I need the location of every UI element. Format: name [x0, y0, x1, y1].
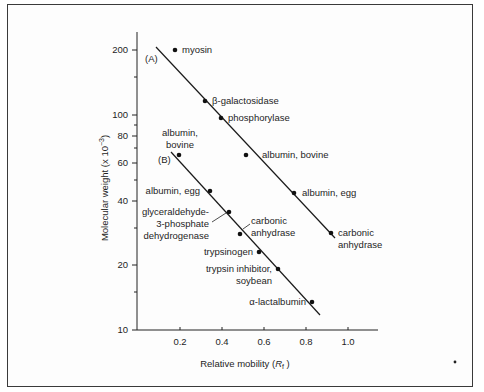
svg-text:40: 40 — [117, 195, 128, 206]
svg-text:anhydrase: anhydrase — [251, 227, 295, 238]
y-tick-labels: 10 20 40 60 80 100 200 — [112, 44, 128, 335]
stray-mark — [454, 361, 457, 364]
svg-text:anhydrase: anhydrase — [338, 239, 382, 250]
svg-text:glyceraldehyde-: glyceraldehyde- — [142, 206, 209, 217]
x-axis-title: Relative mobility (Rf ) — [200, 358, 290, 370]
svg-text:carbonic: carbonic — [251, 215, 287, 226]
svg-text:trypsinogen: trypsinogen — [204, 246, 253, 257]
x-tick-labels: 0.2 0.4 0.6 0.8 1.0 — [173, 336, 354, 347]
svg-text:dehydrogenase: dehydrogenase — [144, 230, 210, 241]
point-myosin — [173, 48, 178, 53]
point-albumin-egg-b — [208, 189, 213, 194]
point-carbonic-anhydrase-a — [329, 231, 334, 236]
y-axis-title: Molecular weight (x 10−3) — [98, 135, 110, 241]
svg-text:80: 80 — [117, 130, 128, 141]
svg-text:trypsin inhibitor,: trypsin inhibitor, — [206, 263, 272, 274]
svg-text:3-phosphate: 3-phosphate — [156, 218, 209, 229]
point-carbonic-anhydrase-b — [238, 232, 243, 237]
point-trypsin-inhibitor — [276, 267, 281, 272]
svg-text:myosin: myosin — [182, 44, 212, 55]
svg-text:0.8: 0.8 — [299, 336, 312, 347]
chart: 10 20 40 60 80 100 200 0.2 0.4 0.6 0.8 1… — [0, 0, 484, 392]
point-albumin-egg-a — [292, 191, 297, 196]
svg-text:albumin, egg: albumin, egg — [146, 185, 200, 196]
svg-text:phosphorylase: phosphorylase — [228, 112, 290, 123]
svg-text:soybean: soybean — [236, 275, 272, 286]
svg-text:100: 100 — [112, 109, 128, 120]
svg-text:0.6: 0.6 — [257, 336, 270, 347]
series-a-label: (A) — [145, 53, 158, 64]
point-phosphorylase — [219, 116, 224, 121]
svg-text:1.0: 1.0 — [341, 336, 354, 347]
svg-text:β-galactosidase: β-galactosidase — [212, 95, 279, 106]
point-beta-galactosidase — [203, 99, 208, 104]
svg-text:60: 60 — [117, 157, 128, 168]
svg-text:albumin, bovine: albumin, bovine — [262, 149, 329, 160]
svg-text:10: 10 — [117, 324, 128, 335]
point-alpha-lactalbumin — [310, 300, 315, 305]
point-albumin-bovine-a — [244, 153, 249, 158]
series-b-label: (B) — [158, 154, 171, 165]
svg-text:carbonic: carbonic — [338, 227, 374, 238]
svg-text:albumin,: albumin, — [162, 127, 198, 138]
svg-text:0.4: 0.4 — [215, 336, 228, 347]
svg-text:200: 200 — [112, 44, 128, 55]
svg-text:20: 20 — [117, 259, 128, 270]
svg-text:bovine: bovine — [166, 139, 194, 150]
svg-text:α-lactalbumin: α-lactalbumin — [249, 296, 306, 307]
point-trypsinogen — [257, 250, 262, 255]
point-albumin-bovine-b — [177, 153, 182, 158]
svg-text:0.2: 0.2 — [173, 336, 186, 347]
svg-text:albumin, egg: albumin, egg — [302, 187, 356, 198]
y-ticks — [132, 50, 137, 330]
point-gapdh — [227, 210, 232, 215]
